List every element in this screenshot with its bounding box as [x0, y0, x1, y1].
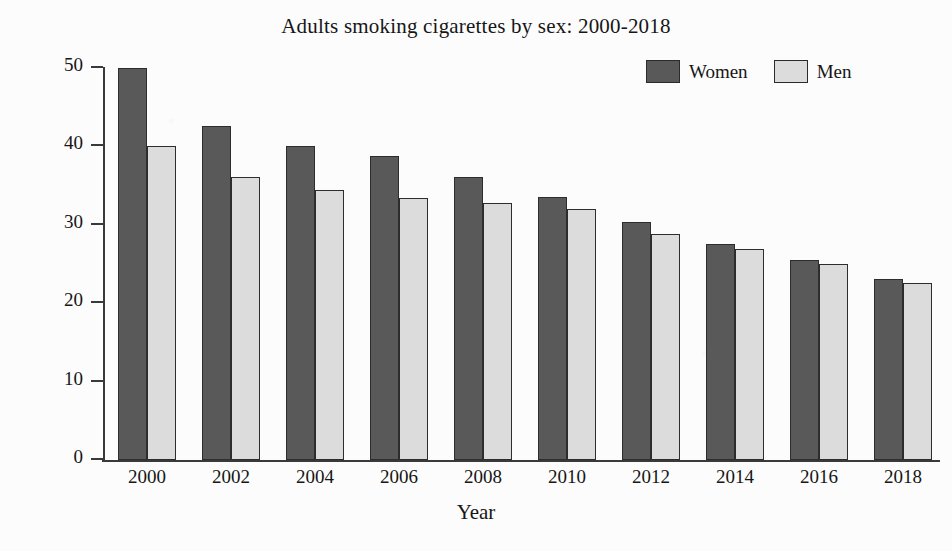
- bar-men-2014: [735, 249, 764, 460]
- y-tick: 20: [91, 301, 103, 303]
- bar-group: 2016: [790, 68, 848, 460]
- y-tick-label: 10: [64, 368, 83, 390]
- plot-area: 01020304050 2000200220042006200820102012…: [103, 68, 935, 460]
- bar-group: 2008: [454, 68, 512, 460]
- bar-women-2016: [790, 260, 819, 460]
- bar-men-2004: [315, 190, 344, 460]
- x-tick-label: 2006: [354, 466, 444, 488]
- bar-men-2018: [903, 283, 932, 460]
- x-tick-label: 2000: [102, 466, 192, 488]
- y-tick-label: 40: [64, 132, 83, 154]
- bar-men-2006: [399, 198, 428, 460]
- bar-women-2006: [370, 156, 399, 460]
- bar-group: 2012: [622, 68, 680, 460]
- chart-page: Adults smoking cigarettes by sex: 2000-2…: [0, 0, 952, 551]
- x-tick-label: 2016: [774, 466, 864, 488]
- y-tick-label: 20: [64, 289, 83, 311]
- bar-women-2008: [454, 177, 483, 460]
- bar-men-2012: [651, 234, 680, 460]
- y-tick: 40: [91, 144, 103, 146]
- x-tick-label: 2008: [438, 466, 528, 488]
- chart-title: Adults smoking cigarettes by sex: 2000-2…: [0, 14, 952, 39]
- bar-women-2002: [202, 126, 231, 460]
- y-tick: 30: [91, 223, 103, 225]
- x-tick-label: 2014: [690, 466, 780, 488]
- bar-group: 2014: [706, 68, 764, 460]
- y-tick: 0: [91, 458, 103, 460]
- x-tick-label: 2018: [858, 466, 948, 488]
- bar-men-2008: [483, 203, 512, 460]
- y-tick-label: 0: [74, 446, 84, 468]
- y-tick-label: 50: [64, 54, 83, 76]
- bar-women-2010: [538, 197, 567, 460]
- bar-women-2014: [706, 244, 735, 460]
- x-tick-label: 2004: [270, 466, 360, 488]
- y-axis-line: [103, 67, 105, 461]
- x-tick-label: 2012: [606, 466, 696, 488]
- bar-women-2018: [874, 279, 903, 460]
- bar-men-2010: [567, 209, 596, 460]
- bar-men-2000: [147, 146, 176, 460]
- bar-women-2000: [118, 68, 147, 460]
- bar-group: 2010: [538, 68, 596, 460]
- y-tick-label: 30: [64, 211, 83, 233]
- bar-women-2004: [286, 146, 315, 460]
- x-tick-label: 2002: [186, 466, 276, 488]
- bar-men-2016: [819, 264, 848, 460]
- y-tick: 50: [91, 66, 103, 68]
- bar-group: 2018: [874, 68, 932, 460]
- bar-men-2002: [231, 177, 260, 460]
- x-axis-line: [102, 460, 940, 462]
- bar-group: 2002: [202, 68, 260, 460]
- x-tick-label: 2010: [522, 466, 612, 488]
- y-tick: 10: [91, 380, 103, 382]
- bar-women-2012: [622, 222, 651, 460]
- bar-group: 2004: [286, 68, 344, 460]
- bar-group: 2006: [370, 68, 428, 460]
- x-axis-title: Year: [0, 500, 952, 525]
- bar-group: 2000: [118, 68, 176, 460]
